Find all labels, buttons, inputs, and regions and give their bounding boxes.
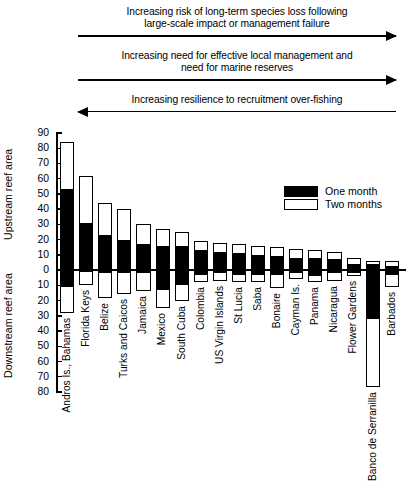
y-tick-label: 10 xyxy=(37,250,49,260)
x-axis-label: Nicaragua xyxy=(329,286,339,332)
bar-slot[interactable] xyxy=(270,133,284,392)
bar-one-month-upstream xyxy=(213,252,227,270)
x-axis-label: Flower Gardens xyxy=(348,281,358,353)
bar-one-month-downstream xyxy=(79,270,93,272)
y-tick-label: 30 xyxy=(37,311,49,321)
bar-one-month-downstream xyxy=(232,270,246,275)
y-axis-title-downstream: Downstream reef area xyxy=(2,262,14,390)
bar-one-month-downstream xyxy=(289,270,303,273)
bar-one-month-downstream xyxy=(327,270,341,273)
y-tick-label: 0 xyxy=(43,265,49,275)
annotation-species-loss-line1: Increasing risk of long-term species los… xyxy=(78,6,396,18)
bar-one-month-upstream xyxy=(327,259,341,270)
bar-one-month-downstream xyxy=(156,270,170,290)
legend-swatch-one-month xyxy=(284,186,318,197)
bar-one-month-downstream xyxy=(251,270,265,275)
legend-item-one-month: One month xyxy=(284,186,402,197)
y-tick-label: 80 xyxy=(37,387,49,397)
bar-one-month-downstream xyxy=(60,270,74,287)
x-axis-label: St Lucia xyxy=(234,287,244,324)
annotation-resilience: Increasing resilience to recruitment ove… xyxy=(78,94,396,116)
y-tick-label: 50 xyxy=(37,189,49,199)
y-tick-label: 60 xyxy=(37,174,49,184)
x-axis-label: Mexico xyxy=(157,313,167,345)
bar-one-month-upstream xyxy=(194,250,208,270)
plot-area: 90807060504030201001020304050607080 Andr… xyxy=(56,133,406,392)
x-axis-label: Saba xyxy=(253,287,263,311)
y-tick-label: 50 xyxy=(37,341,49,351)
x-axis-label: Turks and Caicos xyxy=(119,299,129,378)
y-tick-label: 20 xyxy=(37,295,49,305)
bar-one-month-upstream xyxy=(232,253,246,270)
annotation-species-loss: Increasing risk of long-term species los… xyxy=(78,6,396,40)
y-tick-label: 70 xyxy=(37,372,49,382)
y-tick-label: 90 xyxy=(37,128,49,138)
bar-one-month-downstream xyxy=(308,270,322,276)
legend-item-two-months: Two months xyxy=(284,199,402,210)
bar-slot[interactable] xyxy=(232,133,246,392)
bar-slot[interactable] xyxy=(385,133,399,392)
bar-two-months-downstream xyxy=(136,270,150,291)
bar-one-month-downstream xyxy=(385,270,399,275)
y-tick-label: 70 xyxy=(37,158,49,168)
y-tick-label: 40 xyxy=(37,326,49,336)
bar-one-month-upstream xyxy=(60,189,74,270)
bar-one-month-upstream xyxy=(117,240,131,270)
arrow-right-species-loss xyxy=(78,31,396,40)
bar-slot[interactable] xyxy=(98,133,112,392)
y-tick-label: 10 xyxy=(37,280,49,290)
bar-one-month-upstream xyxy=(308,258,322,270)
annotation-local-management: Increasing need for effective local mana… xyxy=(78,50,396,84)
y-tick-label: 60 xyxy=(37,356,49,366)
bar-slot[interactable] xyxy=(327,133,341,392)
bar-slot[interactable] xyxy=(308,133,322,392)
annotation-local-management-line2: need for marine reserves xyxy=(78,62,396,74)
annotation-local-management-line1: Increasing need for effective local mana… xyxy=(78,50,396,62)
bar-slot[interactable] xyxy=(156,133,170,392)
bar-one-month-downstream xyxy=(270,270,284,275)
x-axis-label: US Virgin Islands xyxy=(215,286,225,364)
arrow-right-local-management xyxy=(78,75,396,84)
bar-one-month-downstream xyxy=(175,270,189,285)
x-axis-label: Panama xyxy=(310,287,320,325)
legend-swatch-two-months xyxy=(284,199,318,210)
bar-one-month-upstream xyxy=(270,256,284,270)
legend-label-two-months: Two months xyxy=(325,199,382,210)
bar-slot[interactable] xyxy=(251,133,265,392)
bar-one-month-upstream xyxy=(251,255,265,270)
x-axis-label: Florida Keys xyxy=(81,290,91,347)
x-axis-label: Bonaire xyxy=(272,293,282,328)
legend: One month Two months xyxy=(284,186,402,212)
x-axis-label: Andros Is., Bahamas xyxy=(62,318,72,413)
x-axis-label: Belize xyxy=(100,303,110,331)
bar-one-month-downstream xyxy=(213,270,227,273)
x-axis-label: Jamaica xyxy=(138,296,148,334)
bar-one-month-upstream xyxy=(156,246,170,270)
y-tick-label: 80 xyxy=(37,143,49,153)
bar-one-month-downstream xyxy=(136,270,150,273)
bar-two-months-downstream xyxy=(98,270,112,297)
bar-one-month-upstream xyxy=(289,258,303,270)
x-axis-label: Banco de Serranilla xyxy=(368,392,378,481)
bar-one-month-upstream xyxy=(98,235,112,270)
bar-one-month-downstream xyxy=(98,270,112,273)
legend-label-one-month: One month xyxy=(325,186,377,197)
x-axis-label: South Cuba xyxy=(177,306,187,360)
bar-one-month-downstream xyxy=(194,270,208,275)
bar-two-months-downstream xyxy=(79,270,93,285)
y-tick-label: 20 xyxy=(37,234,49,244)
bar-slot[interactable] xyxy=(289,133,303,392)
bar-slot[interactable] xyxy=(194,133,208,392)
annotation-species-loss-line2: large-scale impact or management failure xyxy=(78,18,396,30)
x-axis-label: Colombia xyxy=(196,287,206,330)
figure-root: Increasing risk of long-term species los… xyxy=(0,0,411,498)
bar-one-month-upstream xyxy=(175,246,189,270)
x-axis-label: Cayman Is. xyxy=(291,284,301,336)
bar-slot[interactable] xyxy=(366,133,380,392)
bar-slot[interactable] xyxy=(136,133,150,392)
y-tick-label: 30 xyxy=(37,219,49,229)
annotation-resilience-line1: Increasing resilience to recruitment ove… xyxy=(78,94,396,106)
y-axis-title-upstream: Upstream reef area xyxy=(2,130,14,258)
bar-slot[interactable] xyxy=(79,133,93,392)
x-axis-label: Barbados xyxy=(387,292,397,336)
